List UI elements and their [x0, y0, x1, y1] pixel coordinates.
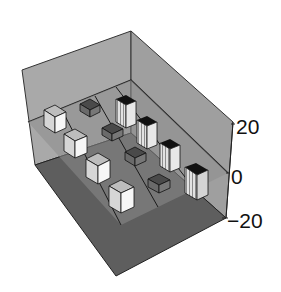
z-tick-label-0: 0	[231, 166, 243, 187]
bar-s1-c3	[86, 153, 110, 184]
bar-s3-c4	[185, 163, 208, 200]
z-tick-label-20: 20	[236, 116, 259, 137]
chart-3d-column: 20 0 −20	[0, 0, 281, 292]
bar-s3-c2	[137, 116, 157, 149]
z-tick-label-neg20: −20	[227, 210, 263, 231]
bar-s3-c3	[160, 139, 180, 172]
bar-s3-c1	[116, 95, 136, 128]
chart-plot-area	[0, 0, 281, 292]
bar-s1-c4	[109, 180, 134, 213]
